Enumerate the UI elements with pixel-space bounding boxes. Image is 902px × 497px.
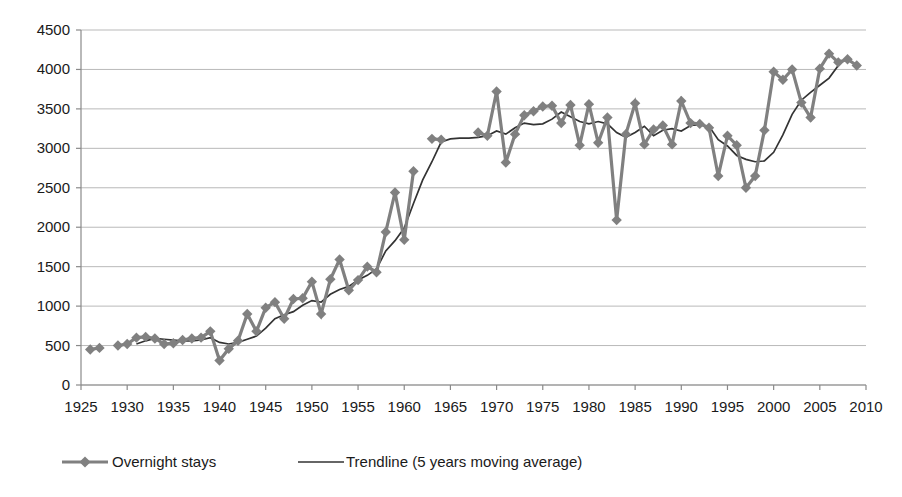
x-tick-label: 1995: [711, 398, 744, 415]
data-point-marker: [676, 96, 686, 106]
trendline-path: [136, 66, 838, 344]
x-tick-label: 1980: [572, 398, 605, 415]
x-tick-label: 1990: [665, 398, 698, 415]
x-tick-label: 1960: [388, 398, 421, 415]
y-tick-labels: 050010001500200025003000350040004500: [37, 21, 70, 393]
data-point-marker: [113, 340, 123, 350]
data-point-marker: [621, 129, 631, 139]
x-tick-label: 1930: [110, 398, 143, 415]
y-axis: [76, 30, 81, 385]
data-point-marker: [602, 112, 612, 122]
y-tick-label: 2500: [37, 179, 70, 196]
data-point-marker: [94, 343, 104, 353]
data-point-marker: [325, 274, 335, 284]
data-point-marker: [187, 333, 197, 343]
data-point-marker: [177, 335, 187, 345]
data-point-marker: [593, 138, 603, 148]
data-point-marker: [584, 99, 594, 109]
data-point-marker: [519, 110, 529, 120]
x-tick-label: 1945: [249, 398, 282, 415]
x-tick-label: 2010: [849, 398, 882, 415]
data-point-marker: [491, 86, 501, 96]
x-tick-label: 1955: [341, 398, 374, 415]
x-tick-label: 1985: [618, 398, 651, 415]
legend-label-overnight-stays: Overnight stays: [112, 453, 216, 470]
y-tick-label: 2000: [37, 218, 70, 235]
data-point-marker: [288, 294, 298, 304]
x-tick-label: 2005: [803, 398, 836, 415]
legend-series-marker: [79, 456, 90, 467]
y-tick-label: 3000: [37, 139, 70, 156]
overnight-stays-chart: 050010001500200025003000350040004500 192…: [0, 0, 902, 497]
chart-legend: Overnight staysTrendline (5 years moving…: [62, 453, 582, 470]
legend-label-trendline: Trendline (5 years moving average): [346, 453, 582, 470]
x-tick-label: 1950: [295, 398, 328, 415]
y-tick-label: 4000: [37, 60, 70, 77]
x-tick-label: 1940: [203, 398, 236, 415]
data-point-marker: [695, 119, 705, 129]
x-tick-label: 1970: [480, 398, 513, 415]
y-tick-label: 500: [45, 337, 70, 354]
x-tick-label: 1935: [157, 398, 190, 415]
y-tick-label: 3500: [37, 100, 70, 117]
data-point-marker: [399, 235, 409, 245]
y-tick-label: 1000: [37, 297, 70, 314]
data-point-marker: [482, 131, 492, 141]
data-point-marker: [427, 134, 437, 144]
series-path: [478, 54, 857, 220]
data-point-marker: [436, 134, 446, 144]
chart-container: 050010001500200025003000350040004500 192…: [0, 0, 902, 497]
data-point-marker: [501, 157, 511, 167]
data-point-marker: [713, 171, 723, 181]
overnight-stays-series: [85, 48, 862, 365]
data-point-marker: [316, 309, 326, 319]
data-point-marker: [334, 254, 344, 264]
data-point-marker: [759, 125, 769, 135]
x-axis: [81, 385, 866, 390]
y-tick-label: 0: [62, 376, 70, 393]
data-point-marker: [611, 215, 621, 225]
x-tick-label: 1975: [526, 398, 559, 415]
x-tick-label: 2000: [757, 398, 790, 415]
data-point-marker: [630, 98, 640, 108]
trendline-series: [136, 66, 838, 344]
data-point-marker: [381, 227, 391, 237]
data-point-marker: [408, 166, 418, 176]
data-point-marker: [390, 187, 400, 197]
x-tick-label: 1965: [434, 398, 467, 415]
y-tick-label: 4500: [37, 21, 70, 38]
x-tick-labels: 1925193019351940194519501955196019651970…: [64, 398, 882, 415]
x-tick-label: 1925: [64, 398, 97, 415]
y-tick-label: 1500: [37, 258, 70, 275]
gridlines: [81, 30, 866, 385]
